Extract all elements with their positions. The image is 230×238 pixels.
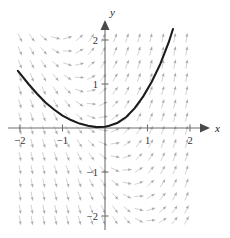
slope-arrow-head-icon xyxy=(174,86,177,89)
slope-arrow-head-icon xyxy=(31,197,34,200)
x-tick-label: −2 xyxy=(14,135,25,146)
slope-arrow-head-icon xyxy=(185,100,188,103)
slope-arrow-head-icon xyxy=(140,195,143,198)
y-tick-label: 2 xyxy=(93,35,98,46)
slope-arrow-head-icon xyxy=(55,210,58,213)
x-tick-label: 1 xyxy=(145,135,150,146)
slope-arrow-head-icon xyxy=(31,105,34,108)
slope-arrow-head-icon xyxy=(19,131,22,134)
slope-arrow-head-icon xyxy=(31,157,34,160)
slope-arrow-head-icon xyxy=(152,219,155,222)
slope-arrow-head-icon xyxy=(116,155,119,158)
slope-arrow-head-icon xyxy=(173,47,176,50)
y-tick-label: 1 xyxy=(93,79,98,90)
slope-arrow-head-icon xyxy=(69,50,72,53)
slope-arrow-head-icon xyxy=(43,221,46,224)
x-axis-arrow-icon xyxy=(200,124,210,133)
y-axis-arrow-icon xyxy=(101,20,110,30)
slope-arrow-head-icon xyxy=(173,60,176,63)
slope-arrow-head-icon xyxy=(185,113,188,116)
y-tick-label: −2 xyxy=(87,211,98,222)
slope-arrow-head-icon xyxy=(128,168,131,171)
x-tick-label: 2 xyxy=(187,135,192,146)
y-tick-label: −1 xyxy=(87,167,98,178)
slope-arrow-head-icon xyxy=(162,34,165,37)
slope-arrow-head-icon xyxy=(150,34,153,37)
slope-arrow-head-icon xyxy=(43,131,46,134)
slope-arrow-head-icon xyxy=(78,197,81,200)
slope-arrow-head-icon xyxy=(43,184,46,187)
slope-arrow-head-icon xyxy=(81,76,84,79)
slope-arrow-head-icon xyxy=(185,73,188,76)
slope-arrow-head-icon xyxy=(174,139,177,142)
y-axis-label: y xyxy=(109,6,115,18)
slope-arrow-head-icon xyxy=(31,210,34,213)
slope-arrow-head-icon xyxy=(185,86,188,89)
slope-arrow-head-icon xyxy=(162,47,165,50)
plot-canvas: −2−11221−1−2 x y xyxy=(0,0,230,238)
slope-arrow-head-icon xyxy=(43,197,46,200)
direction-field-group xyxy=(18,34,189,225)
slope-arrow-head-icon xyxy=(138,73,141,76)
slope-arrow-head-icon xyxy=(19,158,22,161)
slope-arrow-head-icon xyxy=(31,171,34,174)
slope-arrow-head-icon xyxy=(173,34,176,37)
x-tick-label: −1 xyxy=(57,135,68,146)
slope-arrow-head-icon xyxy=(43,210,46,213)
slope-arrow-head-icon xyxy=(55,221,58,224)
slope-arrow-head-icon xyxy=(162,113,165,116)
slope-arrow-head-icon xyxy=(55,157,58,160)
slope-arrow-head-icon xyxy=(93,102,96,105)
slope-arrow-head-icon xyxy=(185,60,188,63)
x-axis-label: x xyxy=(214,122,220,134)
slope-arrow-head-icon xyxy=(19,78,22,81)
slope-arrow-head-icon xyxy=(19,171,22,174)
slope-field-figure: −2−11221−1−2 x y xyxy=(0,0,230,238)
slope-arrow-head-icon xyxy=(31,184,34,187)
slope-arrow-head-icon xyxy=(126,47,129,50)
slope-arrow-head-icon xyxy=(174,73,177,76)
slope-arrow-head-icon xyxy=(186,166,189,169)
slope-arrow-head-icon xyxy=(19,184,22,187)
slope-arrow-head-icon xyxy=(128,182,131,185)
